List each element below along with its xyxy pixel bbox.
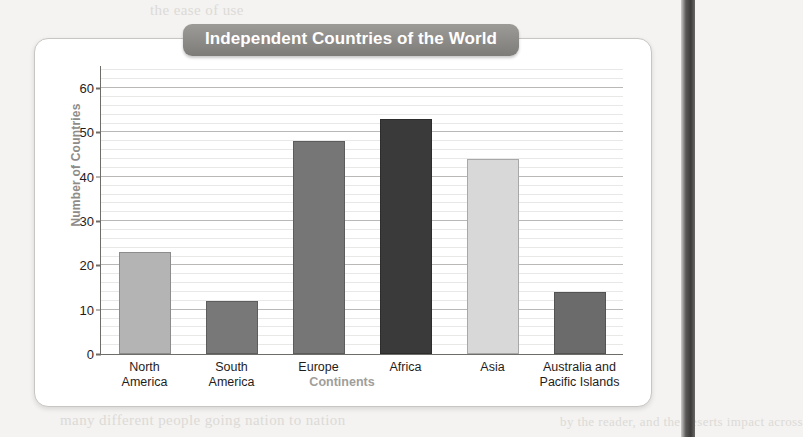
- bar-slot: Australia andPacific Islands: [536, 66, 623, 354]
- x-tick-label: Asia: [480, 360, 504, 375]
- plot-area: 0102030405060 NorthAmericaSouthAmericaEu…: [100, 66, 623, 355]
- bar-slot: Europe: [275, 66, 362, 354]
- bar-slot: Asia: [449, 66, 536, 354]
- y-tick-label: 20: [80, 258, 94, 273]
- bar-slot: SouthAmerica: [188, 66, 275, 354]
- x-tick-label: SouthAmerica: [209, 360, 255, 390]
- x-tick-label: NorthAmerica: [122, 360, 168, 390]
- chart-bar[interactable]: [206, 301, 258, 354]
- page-bleed-top: the ease of use: [150, 2, 244, 19]
- chart-title-banner: Independent Countries of the World: [183, 24, 519, 56]
- x-tick-label: Europe: [298, 360, 338, 375]
- bars-layer: NorthAmericaSouthAmericaEuropeAfricaAsia…: [101, 66, 623, 354]
- bar-slot: Africa: [362, 66, 449, 354]
- page-binding-strip: [681, 0, 695, 437]
- page-bleed-bottom: many different people going nation to na…: [60, 412, 346, 429]
- y-tick-label: 40: [80, 169, 94, 184]
- chart-bar[interactable]: [119, 252, 171, 354]
- x-tick-label: Africa: [390, 360, 422, 375]
- chart-bar[interactable]: [554, 292, 606, 354]
- y-tick-label: 50: [80, 125, 94, 140]
- y-tick-label: 30: [80, 214, 94, 229]
- chart-bar[interactable]: [293, 141, 345, 354]
- x-tick-label: Australia andPacific Islands: [540, 360, 620, 390]
- y-tick-label: 0: [87, 347, 94, 362]
- y-tick-label: 60: [80, 81, 94, 96]
- chart-bar[interactable]: [467, 159, 519, 354]
- chart-title: Independent Countries of the World: [205, 29, 497, 49]
- y-tick-label: 10: [80, 302, 94, 317]
- bar-slot: NorthAmerica: [101, 66, 188, 354]
- chart-plot-wrapper: Number of Countries Continents 010203040…: [34, 38, 650, 405]
- chart-bar[interactable]: [380, 119, 432, 354]
